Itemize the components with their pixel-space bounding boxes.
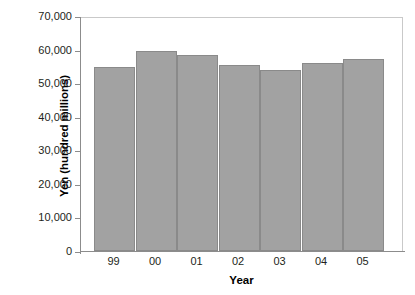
y-tick-label: 30,000 [16,145,72,156]
bar [302,63,343,251]
y-tick-label: 60,000 [16,45,72,56]
bar [343,59,384,251]
x-tick-label: 04 [301,256,342,267]
x-tick-label: 00 [135,256,176,267]
x-axis-tick-labels: 99000102030405 [80,256,403,272]
x-axis-title: Year [80,274,403,286]
bar-series [81,18,402,251]
x-tick-label: 03 [259,256,300,267]
x-tick-label: 01 [176,256,217,267]
y-tick-label: 20,000 [16,179,72,190]
bar [260,70,301,251]
y-tick-label: 10,000 [16,212,72,223]
x-tick-label: 99 [93,256,134,267]
plot-area [80,17,403,252]
bar [177,55,218,251]
x-tick-label: 02 [218,256,259,267]
x-tick-label: 05 [342,256,383,267]
y-tick-label: 70,000 [16,11,72,22]
bar [219,65,260,251]
y-tick-label: 50,000 [16,78,72,89]
x-axis-line [80,251,405,252]
y-tick-label: 0 [16,246,72,257]
bar [94,67,135,251]
y-axis-tick-labels: 010,00020,00030,00040,00050,00060,00070,… [16,0,72,295]
bar-chart: Yen (hundred millions) 010,00020,00030,0… [0,0,415,295]
bar [136,51,177,251]
y-tick-label: 40,000 [16,112,72,123]
